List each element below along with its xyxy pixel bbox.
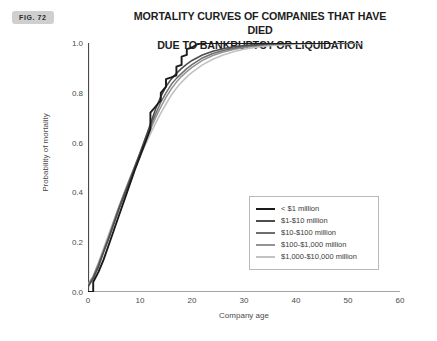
y-axis-tick-labels: 0.00.20.40.60.81.0 (58, 43, 83, 292)
chart-title-line-1: MORTALITY CURVES OF COMPANIES THAT HAVE … (121, 9, 400, 38)
legend-item-label: $100-$1,000 million (281, 241, 346, 249)
legend-item[interactable]: < $1 million (256, 203, 373, 215)
y-axis-tick-label: 0.4 (72, 188, 83, 197)
x-axis-tick-label: 50 (344, 296, 353, 305)
legend-item[interactable]: $1,000-$10,000 million (256, 251, 373, 263)
x-axis-tick-label: 10 (136, 296, 145, 305)
legend-color-swatch (256, 244, 275, 246)
legend-item[interactable]: $1-$10 million (256, 215, 373, 227)
x-axis-tick-label: 20 (188, 296, 197, 305)
chart-legend: < $1 million$1-$10 million$10-$100 milli… (249, 196, 379, 270)
legend-item-label: $10-$100 million (281, 229, 336, 237)
legend-item-label: < $1 million (281, 205, 319, 213)
x-axis-tick-label: 30 (240, 296, 249, 305)
legend-item[interactable]: $100-$1,000 million (256, 239, 373, 251)
legend-item-label: $1,000-$10,000 million (281, 253, 357, 261)
figure-root: FIG. 72 MORTALITY CURVES OF COMPANIES TH… (0, 0, 437, 341)
x-axis-tick-label: 40 (292, 296, 301, 305)
y-axis-tick-label: 0.8 (72, 88, 83, 97)
legend-item[interactable]: $10-$100 million (256, 227, 373, 239)
legend-color-swatch (256, 208, 275, 210)
y-axis-title: Probability of mortality (41, 93, 50, 213)
y-axis-tick-label: 1.0 (72, 39, 83, 48)
legend-color-swatch (256, 232, 275, 234)
legend-color-swatch (256, 256, 275, 258)
y-axis-tick-label: 0.6 (72, 138, 83, 147)
y-axis-tick-label: 0.0 (72, 288, 83, 297)
y-axis-tick-label: 0.2 (72, 238, 83, 247)
x-axis-tick-label: 0 (86, 296, 90, 305)
legend-color-swatch (256, 220, 275, 222)
x-axis-tick-labels: 0102030405060 (88, 296, 400, 310)
figure-number-badge: FIG. 72 (12, 11, 54, 24)
legend-item-label: $1-$10 million (281, 217, 328, 225)
x-axis-title: Company age (88, 311, 400, 320)
x-axis-tick-label: 60 (396, 296, 405, 305)
